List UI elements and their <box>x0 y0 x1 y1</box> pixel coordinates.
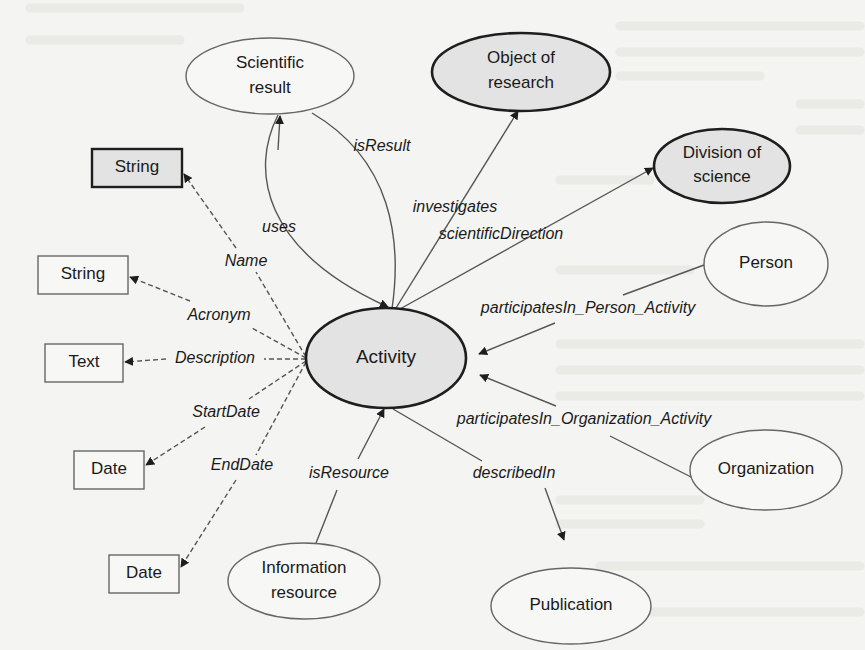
activity-ontology-diagram: Activity Scientific result Object of res… <box>0 0 865 650</box>
edge-label-Description: Description <box>175 349 255 366</box>
node-person[interactable]: Person <box>704 222 828 306</box>
node-string-acronym[interactable]: String <box>38 256 128 294</box>
node-activity-label: Activity <box>356 346 417 367</box>
edge-label-investigates: investigates <box>413 198 498 215</box>
node-division-of-science-label-line2: science <box>693 167 751 186</box>
node-object-of-research-label-line1: Object of <box>487 48 555 67</box>
edge-label-participatesIn-Organization-Activity: participatesIn_Organization_Activity <box>456 410 712 427</box>
node-activity[interactable]: Activity <box>306 308 466 408</box>
node-person-label: Person <box>739 253 793 272</box>
edge-label-scientificDirection: scientificDirection <box>439 225 564 242</box>
node-organization[interactable]: Organization <box>690 430 842 510</box>
edge-label-Name: Name <box>225 252 268 269</box>
edge-label-EndDate: EndDate <box>211 456 273 473</box>
node-scientific-result[interactable]: Scientific result <box>186 38 354 114</box>
edge-label-isResource: isResource <box>309 464 389 481</box>
node-scientific-result-label-line1: Scientific <box>236 53 305 72</box>
node-date-start[interactable]: Date <box>74 451 144 489</box>
node-date-end[interactable]: Date <box>109 555 179 593</box>
edge-label-isResult: isResult <box>354 137 411 154</box>
node-division-of-science[interactable]: Division of science <box>654 129 790 203</box>
node-information-resource-label-line2: resource <box>271 583 337 602</box>
node-organization-label: Organization <box>718 459 814 478</box>
node-string-name[interactable]: String <box>92 149 182 187</box>
node-string-name-label: String <box>115 157 159 176</box>
node-text-description-label: Text <box>68 352 99 371</box>
edge-label-StartDate: StartDate <box>192 403 260 420</box>
node-text-description[interactable]: Text <box>45 344 123 382</box>
node-information-resource-label-line1: Information <box>261 558 346 577</box>
node-publication[interactable]: Publication <box>491 568 651 644</box>
node-object-of-research-label-line2: research <box>488 73 554 92</box>
node-scientific-result-label-line2: result <box>249 78 291 97</box>
edge-label-describedIn: describedIn <box>473 464 556 481</box>
node-date-start-label: Date <box>91 459 127 478</box>
node-date-end-label: Date <box>126 563 162 582</box>
edge-label-participatesIn-Person-Activity: participatesIn_Person_Activity <box>480 299 696 316</box>
node-information-resource[interactable]: Information resource <box>228 543 380 619</box>
edge-label-Acronym: Acronym <box>186 306 250 323</box>
node-publication-label: Publication <box>529 595 612 614</box>
edge-label-uses: uses <box>262 218 296 235</box>
node-division-of-science-label-line1: Division of <box>683 143 762 162</box>
node-object-of-research[interactable]: Object of research <box>432 33 610 111</box>
node-string-acronym-label: String <box>61 264 105 283</box>
